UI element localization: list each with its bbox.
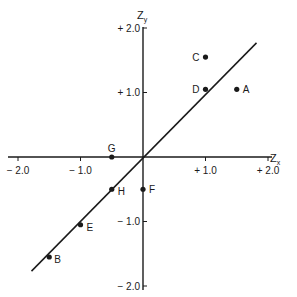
point-label: A	[243, 84, 250, 95]
y-tick-label: + 2.0	[117, 23, 140, 34]
y-tick-label: + 1.0	[117, 87, 140, 98]
point-label: C	[192, 52, 199, 63]
chart-canvas: − 2.0− 1.0+ 1.0+ 2.0+ 2.0+ 1.0− 1.0− 2.0…	[0, 0, 297, 297]
x-tick-label: + 1.0	[194, 165, 217, 176]
data-points: ABCDEFGH	[47, 52, 250, 265]
point-label: D	[192, 84, 199, 95]
data-point-h	[109, 187, 114, 192]
point-label: G	[108, 143, 116, 154]
y-tick-label: − 1.0	[117, 216, 140, 227]
x-tick-label: + 2.0	[257, 165, 280, 176]
x-axis-label: Zx	[270, 152, 281, 166]
data-point-b	[47, 254, 52, 259]
data-point-f	[140, 187, 145, 192]
point-label: B	[54, 254, 61, 265]
data-point-e	[78, 222, 83, 227]
data-point-g	[109, 154, 114, 159]
x-tick-label: − 2.0	[7, 165, 30, 176]
x-tick-label: − 1.0	[69, 165, 92, 176]
point-label: F	[149, 184, 155, 195]
point-label: H	[118, 186, 125, 197]
point-label: E	[87, 222, 94, 233]
scatter-chart: − 2.0− 1.0+ 1.0+ 2.0+ 2.0+ 1.0− 1.0− 2.0…	[0, 0, 297, 297]
data-point-c	[203, 54, 208, 59]
data-point-a	[234, 87, 239, 92]
data-point-d	[203, 87, 208, 92]
y-tick-label: − 2.0	[117, 281, 140, 292]
